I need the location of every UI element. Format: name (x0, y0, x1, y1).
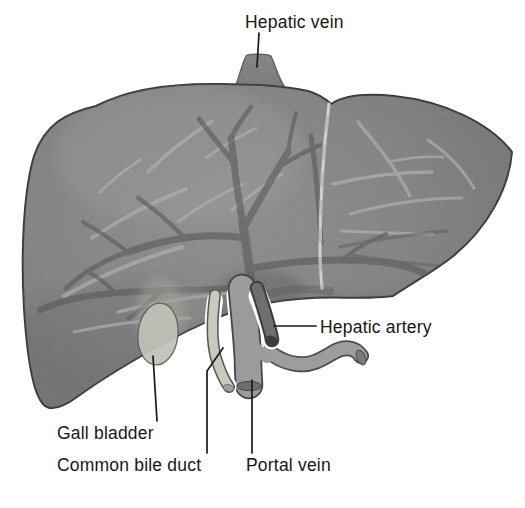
portal-vein-cut-end (237, 381, 262, 390)
liver-anatomy-figure: Hepatic vein Hepatic artery Gall bladder… (0, 0, 525, 508)
leader-gall-bladder (153, 356, 157, 421)
grain-light (0, 40, 525, 460)
label-portal-vein: Portal vein (246, 455, 331, 475)
label-gall-bladder: Gall bladder (57, 423, 154, 443)
label-hepatic-artery: Hepatic artery (320, 317, 432, 337)
label-hepatic-vein: Hepatic vein (245, 12, 344, 32)
label-common-bile-duct: Common bile duct (57, 455, 201, 475)
liver-diagram-canvas: Hepatic vein Hepatic artery Gall bladder… (0, 0, 525, 508)
